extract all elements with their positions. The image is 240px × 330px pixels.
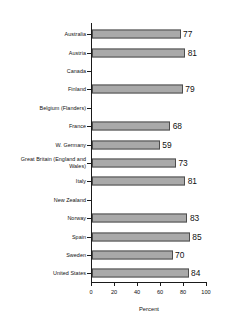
bar-value-label: 83 [190, 214, 199, 223]
y-axis-tick [87, 71, 91, 72]
bar [92, 177, 185, 186]
category-label: Finland [0, 86, 86, 93]
y-axis-tick [87, 108, 91, 109]
x-axis-tick [160, 282, 161, 286]
table-row: Great Britain (England and Wales)73 [0, 154, 240, 172]
table-row: Belgium (Flanders) [0, 99, 240, 117]
bar [92, 232, 190, 241]
table-row: W. Germany59 [0, 135, 240, 153]
y-axis-tick [87, 126, 91, 127]
bar [92, 85, 183, 94]
x-axis-tick-label: 100 [201, 289, 210, 296]
table-row: Austria81 [0, 43, 240, 61]
bar [92, 269, 189, 278]
table-row: Finland79 [0, 80, 240, 98]
category-label: Australia [0, 31, 86, 38]
x-axis-tick-label: 40 [134, 289, 140, 296]
category-label: United States [0, 270, 86, 277]
table-row: New Zealand [0, 191, 240, 209]
bar [92, 30, 181, 39]
category-label: Norway [0, 215, 86, 222]
x-axis-title: Percent [91, 305, 207, 313]
bar [92, 122, 170, 131]
table-row: Norway83 [0, 209, 240, 227]
y-axis-tick [87, 89, 91, 90]
x-axis-tick-label: 0 [89, 289, 92, 296]
table-row: United States84 [0, 264, 240, 282]
x-axis-tick [91, 282, 92, 286]
bar [92, 140, 160, 149]
category-label: New Zealand [0, 196, 86, 203]
bar-value-label: 84 [191, 269, 200, 278]
y-axis-tick [87, 218, 91, 219]
category-label: Sweden [0, 252, 86, 259]
table-row: Australia77 [0, 25, 240, 43]
x-axis-tick [114, 282, 115, 286]
plot-area: Australia77Austria81CanadaFinland79Belgi… [0, 0, 240, 330]
table-row: Canada [0, 62, 240, 80]
bar-chart: Australia77Austria81CanadaFinland79Belgi… [0, 0, 240, 330]
category-label: W. Germany [0, 141, 86, 148]
bar-value-label: 73 [178, 158, 187, 167]
bar [92, 214, 187, 223]
category-label: France [0, 123, 86, 130]
bar-value-label: 81 [188, 48, 197, 57]
category-label: Italy [0, 178, 86, 185]
bar [92, 48, 185, 57]
x-axis-tick [183, 282, 184, 286]
bar-value-label: 70 [175, 250, 184, 259]
x-axis-tick-label: 20 [111, 289, 117, 296]
y-axis-tick [87, 181, 91, 182]
bar-value-label: 59 [162, 140, 171, 149]
table-row: Italy81 [0, 172, 240, 190]
y-axis-tick [87, 273, 91, 274]
y-axis-tick [87, 255, 91, 256]
x-axis-tick [206, 282, 207, 286]
bar-value-label: 85 [192, 232, 201, 241]
bar [92, 158, 176, 167]
table-row: Spain85 [0, 227, 240, 245]
y-axis-tick [87, 200, 91, 201]
bar-value-label: 77 [183, 30, 192, 39]
bar [92, 250, 173, 259]
bar-value-label: 79 [185, 85, 194, 94]
table-row: France68 [0, 117, 240, 135]
x-axis-tick-label: 80 [180, 289, 186, 296]
category-label: Spain [0, 233, 86, 240]
bar-value-label: 68 [173, 122, 182, 131]
y-axis-tick [87, 34, 91, 35]
category-label: Belgium (Flanders) [0, 104, 86, 111]
bar-value-label: 81 [188, 177, 197, 186]
y-axis-tick [87, 145, 91, 146]
x-axis-tick-label: 60 [157, 289, 163, 296]
y-axis-tick [87, 237, 91, 238]
category-label: Canada [0, 68, 86, 75]
y-axis-tick [87, 53, 91, 54]
x-axis-tick [137, 282, 138, 286]
category-label: Austria [0, 49, 86, 56]
category-label: Great Britain (England and Wales) [0, 156, 86, 169]
table-row: Sweden70 [0, 246, 240, 264]
y-axis-tick [87, 163, 91, 164]
